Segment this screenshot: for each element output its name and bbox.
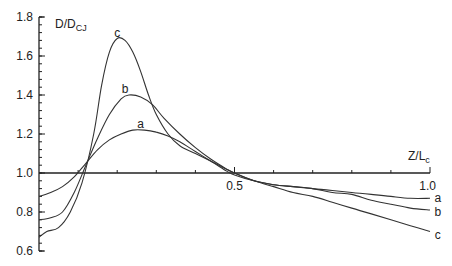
y-tick-label: 1.8 [16, 10, 33, 24]
y-axis-title: D/DCJ [55, 17, 87, 33]
curve-label-c: c [114, 26, 120, 40]
curve-label-b: b [122, 82, 129, 96]
x-axis: 0.51.0 [39, 167, 436, 193]
y-tick-label: 0.8 [16, 205, 33, 219]
y-axis: 0.60.81.01.21.41.61.8 [16, 10, 45, 258]
curve-label-a: a [137, 117, 144, 131]
y-tick-label: 1.2 [16, 127, 33, 141]
line-chart: 0.60.81.01.21.41.61.8 0.51.0 abcabc D/DC… [0, 0, 452, 266]
series-layer [39, 38, 430, 238]
y-tick-label: 1.6 [16, 49, 33, 63]
x-axis-title: Z/Lc [408, 149, 430, 165]
curve-label-b: b [434, 205, 441, 219]
y-tick-label: 1.4 [16, 88, 33, 102]
y-tick-label: 0.6 [16, 244, 33, 258]
curve-label-c: c [435, 228, 441, 242]
curve-label-a: a [434, 191, 441, 205]
x-tick-label: 0.5 [226, 179, 243, 193]
y-tick-label: 1.0 [16, 166, 33, 180]
